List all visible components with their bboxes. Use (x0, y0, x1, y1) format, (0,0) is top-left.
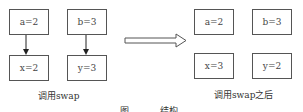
right-box-y: y=2 (252, 53, 292, 79)
left-box-y: y=3 (67, 55, 107, 81)
right-box-x: x=3 (194, 53, 234, 79)
left-box-a: a=2 (9, 9, 49, 35)
right-box-y-text: y=2 (263, 61, 281, 71)
left-box-y-text: y=3 (78, 63, 96, 73)
right-panel-label: 调用swap之后 (214, 88, 273, 101)
left-box-x: x=2 (9, 55, 49, 81)
left-panel-label: 调用swap (38, 89, 79, 102)
right-box-b-text: b=3 (262, 17, 281, 27)
figure-caption-prefix: 图 (120, 104, 129, 112)
left-box-b-text: b=3 (77, 17, 96, 27)
right-box-a: a=2 (194, 9, 234, 35)
right-box-b: b=3 (252, 9, 292, 35)
left-box-x-text: x=2 (20, 63, 38, 73)
left-box-b: b=3 (67, 9, 107, 35)
right-box-x-text: x=3 (205, 61, 223, 71)
right-box-a-text: a=2 (205, 17, 224, 27)
figure-caption-title: 结构 (160, 104, 178, 112)
left-box-a-text: a=2 (20, 17, 39, 27)
